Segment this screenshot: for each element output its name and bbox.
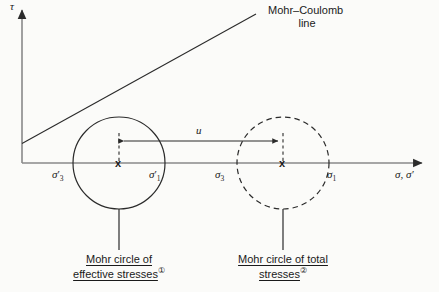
effective-centre-marker: x (115, 157, 121, 169)
sigma1-total-subscript: 1 (332, 174, 336, 183)
sigma1-effective-label: σ′1 (149, 168, 161, 184)
sigma-axis-label-sigma-prime: σ′ (406, 168, 414, 180)
caption-total-line2-wrap: stresses② (216, 266, 350, 281)
caption-effective-line2-wrap: effective stresses① (55, 266, 183, 281)
mohr-coulomb-line-label-line1: Mohr–Coulomb (268, 4, 378, 17)
caption-effective-line1: Mohr circle of (55, 253, 183, 266)
caption-total-note-icon: ② (300, 266, 307, 275)
sigma3-total-subscript: 3 (220, 174, 224, 183)
caption-effective-note-icon: ① (158, 266, 165, 275)
pore-pressure-label: u (196, 124, 202, 137)
tau-axis-label: τ (10, 0, 14, 13)
sigma1-effective-subscript: 1 (157, 174, 161, 183)
caption-effective-line2: effective stresses (73, 268, 158, 280)
mohr-coulomb-line (22, 14, 256, 144)
sigma-axis-label: σ, σ′ (395, 168, 414, 181)
sigma3-total-label: σ3 (215, 168, 224, 184)
mohr-coulomb-line-label: Mohr–Coulomb line (268, 4, 378, 30)
sigma1-total-label: σ1 (327, 168, 336, 184)
caption-effective-stresses: Mohr circle of effective stresses① (55, 253, 183, 281)
caption-total-stresses: Mohr circle of total stresses② (216, 253, 350, 281)
caption-total-line2: stresses (259, 268, 300, 280)
caption-total-line1: Mohr circle of total (216, 253, 350, 266)
mohr-circle-diagram: τ σ, σ′ Mohr–Coulomb line u x x σ′3 σ′1 … (0, 0, 439, 292)
sigma3-effective-subscript: 3 (60, 174, 64, 183)
mohr-coulomb-line-label-line2: line (268, 17, 346, 30)
total-centre-marker: x (279, 157, 285, 169)
sigma3-effective-label: σ′3 (52, 168, 64, 184)
diagram-canvas (0, 0, 439, 292)
